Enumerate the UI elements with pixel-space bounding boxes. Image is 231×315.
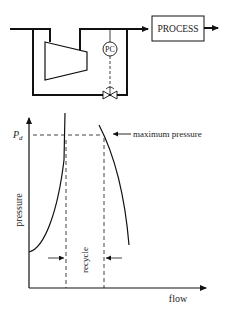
compressor-map-plot: pressure flow Pd recycle maximum pressur… <box>12 113 206 304</box>
process-label: PROCESS <box>157 24 198 34</box>
diagram-canvas: PC PROCESS pressure flow Pd <box>0 0 231 315</box>
max-flow-curve <box>99 125 129 245</box>
surge-curve <box>29 113 65 252</box>
x-axis-label: flow <box>169 293 188 304</box>
pd-label: Pd <box>12 129 23 142</box>
controller-label: PC <box>105 45 115 54</box>
process-schematic: PC PROCESS <box>10 16 218 99</box>
recycle-label: recycle <box>80 247 90 273</box>
recycle-valve-icon <box>103 87 117 99</box>
y-axis-label: pressure <box>13 193 24 227</box>
inlet-pipe <box>10 29 50 42</box>
annotation-label: maximum pressure <box>133 129 202 139</box>
